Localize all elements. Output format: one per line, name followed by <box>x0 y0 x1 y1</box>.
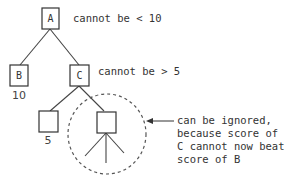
node-a-label: A <box>47 13 53 24</box>
edge-c-d <box>50 86 79 111</box>
edge-a-c <box>50 29 79 65</box>
node-d-value: 5 <box>45 134 52 147</box>
node-e <box>97 112 116 133</box>
note-line-3: C cannot now beat <box>177 140 284 152</box>
note-line-1: can be ignored, <box>177 114 272 126</box>
node-d <box>39 111 58 132</box>
note-line-2: because score of <box>177 127 278 139</box>
node-b-value: 10 <box>12 89 26 102</box>
arrow-icon <box>146 118 174 124</box>
node-c-annotation: cannot be > 5 <box>98 65 180 77</box>
pruned-branch-left <box>85 133 106 156</box>
edge-c-e <box>79 86 104 111</box>
node-a-annotation: cannot be < 10 <box>73 12 162 24</box>
node-a: A <box>42 8 59 29</box>
pruned-branch-right <box>106 133 124 153</box>
pruning-note: can be ignored, because score of C canno… <box>177 114 284 165</box>
node-b: B <box>10 65 28 86</box>
edge-a-b <box>20 29 50 65</box>
note-line-4: score of B <box>177 153 240 165</box>
node-c-label: C <box>76 70 82 81</box>
node-c: C <box>70 65 89 86</box>
node-b-label: B <box>16 70 22 81</box>
game-tree-diagram: A cannot be < 10 B 10 C cannot be > 5 5 … <box>0 0 299 185</box>
